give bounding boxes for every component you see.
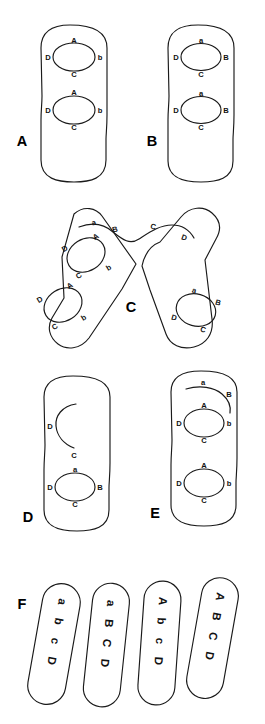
panel-a-loop-2-right: b	[98, 106, 103, 115]
panel-a-loop-1	[53, 43, 95, 71]
panel-c-left-loop-2	[38, 281, 89, 329]
panel-b-loop-2-bottom: C	[198, 123, 204, 132]
panel-c-left-arm-outline	[49, 208, 136, 347]
panel-d-arc-left: D	[47, 422, 53, 431]
figure-svg: A D b C A D b C A a D B C a D B C B a B	[0, 0, 265, 724]
panel-a-loop-1-right: b	[98, 53, 103, 62]
panel-e-label: E	[150, 505, 160, 521]
panel-f-strip-4-letter-2: B	[210, 611, 223, 621]
panel-e-arc-right: B	[226, 390, 232, 399]
panel-f-strip-4: A B C D	[184, 575, 242, 702]
panel-d-loop-1-bottom: C	[72, 500, 78, 509]
panel-b: a D B C a D B C B	[147, 25, 234, 182]
panel-f-strip-1-letter-4: D	[45, 656, 58, 666]
panel-c: a B C D A D b C A D b C a D B C C	[35, 208, 222, 348]
panel-e-loop-2-top: A	[201, 461, 207, 470]
panel-e-loop-1-top: A	[201, 401, 207, 410]
panel-c-label: C	[126, 299, 137, 315]
panel-f-strip-3-letter-1: A	[157, 597, 170, 606]
panel-f-strip-1: a b c D	[25, 581, 84, 708]
panel-f-strip-1-letter-2: b	[52, 617, 65, 626]
panel-c-left-loop-1-bottom: C	[74, 270, 84, 281]
panel-e-loop-2-right: b	[227, 479, 232, 488]
panel-b-label: B	[147, 133, 157, 149]
panel-c-strand-label-d: D	[180, 232, 189, 243]
panel-e-arc-left: a	[201, 378, 206, 387]
panel-c-right-loop-1-bottom: C	[199, 324, 207, 334]
panel-c-strand-label-c: C	[149, 222, 157, 232]
panel-b-loop-1	[181, 44, 221, 71]
panel-d-loop-1-right: B	[97, 483, 103, 492]
panel-c-right-loop-1-right: B	[214, 297, 222, 307]
panel-c-right-loop-1-left: D	[170, 312, 178, 322]
panel-f-strip-2-letter-3: C	[101, 638, 114, 648]
panel-f-strip-3-letter-2: b	[155, 617, 167, 625]
panel-c-left-loop-1-right: b	[104, 262, 113, 272]
panel-c-strand-label-b: B	[111, 224, 119, 234]
panel-b-outline	[168, 25, 234, 182]
panel-c-left-loop-2-left: D	[35, 294, 45, 305]
panel-e-loop-2-left: D	[176, 479, 182, 488]
panel-f-strip-2-letter-4: D	[99, 658, 112, 668]
panel-f-strip-2: a B C D	[82, 581, 132, 708]
panel-e-loop-2-bottom: C	[201, 496, 207, 505]
panel-f: a b c D a B C D A b c D A B C D	[18, 575, 242, 709]
panel-a: A D b C A D b C A	[17, 25, 107, 182]
panel-f-strip-3-letter-4: D	[152, 656, 165, 665]
panel-c-left-loop-2-right: b	[79, 312, 88, 322]
panel-d-label: D	[23, 509, 33, 525]
panel-b-loop-1-left: D	[173, 53, 179, 62]
panel-f-strip-4-letter-1: A	[214, 592, 227, 602]
panel-e-loop-1-bottom: C	[201, 436, 207, 445]
panel-d-arc-bottom: C	[71, 451, 77, 460]
panel-a-label: A	[17, 133, 28, 149]
panel-d: D C a D B C D	[23, 376, 110, 531]
panel-a-loop-2	[53, 96, 95, 124]
panel-d-loop-1	[55, 473, 95, 501]
panel-e-loop-1	[184, 409, 224, 437]
panel-b-loop-1-bottom: C	[198, 70, 204, 79]
panel-c-strand-label-a: a	[91, 218, 98, 228]
panel-a-loop-1-bottom: C	[71, 70, 77, 79]
panel-e-loop-1-left: D	[176, 419, 182, 428]
panel-f-strip-3-letter-3: c	[154, 637, 166, 645]
panel-b-loop-2	[181, 97, 221, 124]
panel-d-loop-1-left: D	[47, 483, 53, 492]
panel-f-strip-3: A b c D	[137, 580, 183, 706]
panel-f-label: F	[18, 596, 27, 612]
panel-f-strip-2-letter-2: B	[103, 618, 116, 628]
panel-b-loop-1-right: B	[223, 53, 229, 62]
panel-b-loop-2-right: B	[223, 106, 229, 115]
panel-c-left-loop-1	[61, 231, 112, 279]
panel-e: a B A D b C A D b C E	[150, 371, 237, 526]
panel-a-loop-2-left: D	[45, 106, 51, 115]
panel-f-strip-2-letter-1: a	[105, 600, 118, 608]
figure-root: A D b C A D b C A a D B C a D B C B a B	[0, 0, 265, 724]
panel-a-outline	[41, 25, 107, 182]
panel-b-loop-2-left: D	[173, 106, 179, 115]
panel-a-loop-2-top: A	[71, 88, 77, 97]
panel-a-loop-2-bottom: C	[71, 123, 77, 132]
panel-f-strip-4-letter-3: C	[207, 631, 220, 641]
panel-a-loop-1-left: D	[45, 53, 51, 62]
panel-f-strip-4-letter-4: D	[203, 651, 216, 661]
panel-e-loop-2	[184, 469, 224, 497]
panel-f-strip-1-letter-3: c	[49, 637, 62, 646]
panel-a-loop-1-top: A	[71, 36, 77, 45]
panel-e-loop-1-right: b	[227, 419, 232, 428]
panel-f-strip-1-letter-1: a	[56, 598, 69, 607]
panel-d-open-arc	[56, 404, 76, 448]
